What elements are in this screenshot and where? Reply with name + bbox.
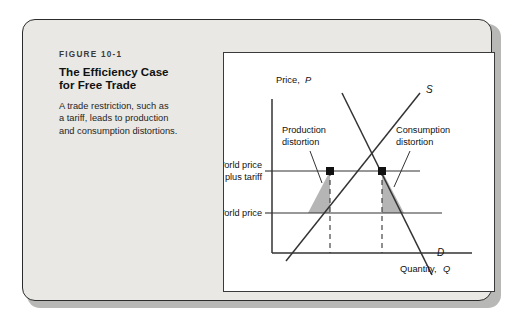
figure-title-line-2: for Free Trade: [59, 78, 209, 91]
y-axis-symbol: P: [305, 75, 312, 85]
production-distortion-leader-line: [310, 151, 322, 183]
figure-caption-panel: FIGURE 10-1 The Efficiency Case for Free…: [59, 50, 209, 138]
demand-curve: [342, 93, 432, 275]
production-point-marker: [326, 167, 334, 175]
figure-title-line-1: The Efficiency Case: [59, 65, 209, 78]
consumption-distortion-label-line-2: distortion: [396, 137, 433, 147]
consumption-distortion-leader-line: [394, 151, 410, 187]
consumption-distortion-label-line-1: Consumption: [396, 125, 450, 135]
y-axis-title: Price,: [276, 75, 300, 85]
figure-description-line-2: a tariff, leads to production: [59, 112, 209, 125]
demand-curve-label: D: [437, 247, 444, 258]
world-price-label: World price: [224, 208, 262, 218]
figure-description-line-1: A trade restriction, such as: [59, 100, 209, 113]
consumption-point-marker: [378, 167, 386, 175]
production-distortion-region: [308, 171, 330, 213]
x-axis-title: Quantity,: [400, 264, 437, 274]
supply-curve-label: S: [426, 84, 433, 95]
supply-curve: [286, 93, 420, 261]
x-axis-symbol: Q: [443, 264, 450, 274]
figure-number: FIGURE 10-1: [59, 50, 209, 59]
figure-card: FIGURE 10-1 The Efficiency Case for Free…: [22, 19, 492, 301]
production-distortion-label-line-2: distortion: [282, 137, 319, 147]
supply-demand-chart: Price, P Quantity, Q S D Production dist…: [224, 53, 496, 293]
world-price-plus-tariff-label-line-2: plus tariff: [225, 172, 263, 182]
figure-root: FIGURE 10-1 The Efficiency Case for Free…: [0, 0, 520, 326]
consumption-distortion-region: [382, 171, 404, 213]
production-distortion-label-line-1: Production: [282, 125, 326, 135]
world-price-plus-tariff-label-line-1: World price: [224, 160, 262, 170]
figure-description: A trade restriction, such as a tariff, l…: [59, 100, 209, 138]
figure-description-line-3: and consumption distortions.: [59, 125, 209, 138]
plot-box: Price, P Quantity, Q S D Production dist…: [223, 52, 495, 292]
figure-title: The Efficiency Case for Free Trade: [59, 65, 209, 92]
